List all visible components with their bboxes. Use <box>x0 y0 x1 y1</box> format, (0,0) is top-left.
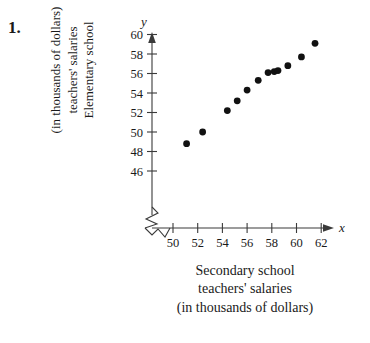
data-point <box>199 129 206 136</box>
data-point <box>244 87 251 94</box>
y-axis <box>148 32 156 215</box>
data-point <box>224 107 231 114</box>
data-points-layer <box>183 40 318 147</box>
y-tick-group: 4648505254565860 <box>131 28 158 179</box>
y-tick-label: 50 <box>131 126 144 140</box>
data-point <box>265 69 272 76</box>
y-axis-title-line-3: (in thousands of dollars) <box>48 7 64 134</box>
problem-number: 1. <box>8 18 21 38</box>
x-axis-variable-label: x <box>338 220 345 235</box>
axis-break-symbol <box>145 207 170 237</box>
data-point <box>298 54 305 61</box>
data-point <box>255 77 262 84</box>
y-axis-title: Elementary school teachers' salaries (in… <box>43 0 103 165</box>
x-axis <box>152 224 334 232</box>
x-tick-label: 58 <box>266 236 279 250</box>
x-tick-label: 54 <box>216 236 229 250</box>
x-tick-label: 56 <box>241 236 254 250</box>
y-tick-label: 60 <box>131 28 144 42</box>
x-tick-group: 50525456586062 <box>167 223 328 250</box>
x-axis-title-line-1: Secondary school <box>120 262 370 280</box>
y-tick-label: 54 <box>131 87 144 101</box>
data-point <box>284 62 291 69</box>
x-axis-title-line-2: teachers' salaries <box>120 280 370 298</box>
x-tick-label: 62 <box>315 236 328 250</box>
data-point <box>275 67 282 74</box>
x-tick-label: 60 <box>290 236 303 250</box>
y-tick-label: 48 <box>131 145 144 159</box>
data-point <box>234 97 241 104</box>
y-axis-variable-label: y <box>139 14 147 29</box>
data-point <box>183 140 190 147</box>
data-point <box>312 40 319 47</box>
x-tick-label: 52 <box>191 236 204 250</box>
y-axis-title-line-2: teachers' salaries <box>65 26 81 113</box>
y-axis-title-line-1: Elementary school <box>81 21 97 118</box>
scatter-plot-figure: 1. Elementary school teachers' salaries … <box>0 0 370 343</box>
y-tick-label: 52 <box>131 106 144 120</box>
y-tick-label: 46 <box>131 165 144 179</box>
y-tick-label: 56 <box>131 67 144 81</box>
y-tick-label: 58 <box>131 48 144 62</box>
x-tick-label: 50 <box>167 236 180 250</box>
x-axis-title: Secondary school teachers' salaries (in … <box>120 262 370 317</box>
plot-area: 4648505254565860 50525456586062 y x <box>100 10 350 260</box>
x-axis-title-line-3: (in thousands of dollars) <box>120 299 370 317</box>
